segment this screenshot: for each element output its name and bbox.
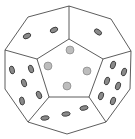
pip [63,82,71,90]
pip [66,46,74,54]
pip [83,67,91,75]
pip [44,62,52,70]
dodecahedron-die-illustration: twelve-sided die (dodecahedron) line ill… [0,0,135,139]
die-drawing [0,0,135,139]
